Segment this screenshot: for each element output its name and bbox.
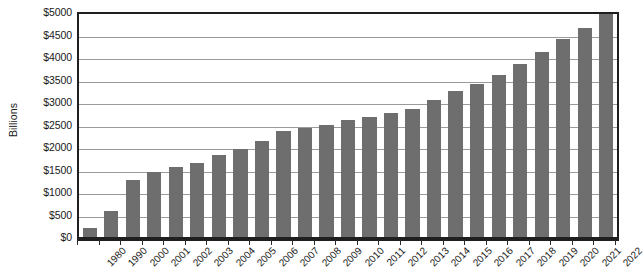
- x-axis-tick-label: 2007: [298, 245, 322, 269]
- bar: [384, 113, 398, 239]
- y-axis-tick-label: $3500: [43, 74, 72, 86]
- x-axis-tick-label: 2022: [621, 245, 644, 269]
- bar: [255, 141, 269, 239]
- y-axis-tick-label: $0: [61, 231, 72, 243]
- bar: [405, 109, 419, 239]
- x-axis-tick-label: 2008: [319, 245, 343, 269]
- x-axis-tick-label: 2005: [255, 245, 279, 269]
- x-axis-tick-label: 2015: [470, 245, 494, 269]
- bar: [362, 117, 376, 239]
- bar: [578, 28, 592, 240]
- y-axis-tick-label: $1500: [43, 164, 72, 176]
- bar: [298, 128, 312, 239]
- x-axis-tick-label: 2012: [406, 245, 430, 269]
- bar: [470, 84, 484, 239]
- y-axis-tick-label: $4000: [43, 51, 72, 63]
- x-axis-tick-label: 2009: [341, 245, 365, 269]
- bar: [513, 64, 527, 240]
- bar: [147, 172, 161, 239]
- bar: [535, 52, 549, 239]
- y-axis-title: Billions: [2, 0, 24, 240]
- x-axis-tick-label: 2004: [233, 245, 257, 269]
- y-axis-tick-label: $1000: [43, 186, 72, 198]
- x-axis-tick-label: 2017: [513, 245, 537, 269]
- bar: [233, 149, 247, 239]
- bar: [190, 163, 204, 240]
- x-axis-tick-label: 2013: [427, 245, 451, 269]
- bar: [212, 155, 226, 239]
- bar: [427, 100, 441, 240]
- x-axis-tick-label: 2019: [556, 245, 580, 269]
- x-axis-tick-label: 2000: [147, 245, 171, 269]
- x-axis-tick-label: 2018: [535, 245, 559, 269]
- y-axis-tick-labels: $5000$4500$4000$3500$3000$2500$2000$1500…: [22, 0, 76, 245]
- y-axis-tick-label: $2500: [43, 119, 72, 131]
- bar: [556, 39, 570, 239]
- x-axis-tick-label: 2001: [169, 245, 193, 269]
- bar: [599, 14, 613, 239]
- bar: [492, 75, 506, 239]
- bar-series: [79, 14, 617, 239]
- x-axis-tick-label: 2006: [276, 245, 300, 269]
- y-axis-tick-label: $2000: [43, 141, 72, 153]
- x-axis-tick-labels: 1980199020002001200220032004200520062007…: [77, 243, 622, 270]
- x-axis-tick-label: 1990: [126, 245, 150, 269]
- bar: [104, 211, 118, 239]
- bar: [341, 120, 355, 239]
- y-axis-tick-label: $4500: [43, 29, 72, 41]
- x-axis-tick-label: 2016: [492, 245, 516, 269]
- bar: [276, 131, 290, 239]
- y-axis-title-label: Billions: [7, 103, 19, 137]
- bar: [169, 167, 183, 239]
- x-axis-tick-label: 2002: [190, 245, 214, 269]
- plot-area: [77, 12, 619, 241]
- bar: [126, 180, 140, 239]
- bar: [319, 125, 333, 239]
- y-axis-tick-label: $5000: [43, 6, 72, 18]
- x-axis-tick-label: 2021: [599, 245, 623, 269]
- x-axis-tick-label: 2020: [578, 245, 602, 269]
- y-axis-tick-label: $500: [49, 209, 72, 221]
- x-axis-tick-label: 2011: [384, 245, 407, 268]
- y-axis-tick-label: $3000: [43, 96, 72, 108]
- x-axis-tick-label: 2010: [363, 245, 387, 269]
- x-axis-tick-label: 2014: [449, 245, 473, 269]
- x-axis-tick-label: 2003: [212, 245, 236, 269]
- x-axis-tick-label: 1980: [104, 245, 128, 269]
- bar: [448, 91, 462, 240]
